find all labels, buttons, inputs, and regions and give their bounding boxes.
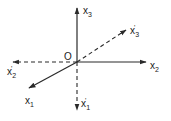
- label-x3-prime: x'3: [130, 26, 139, 40]
- label-x2-prime: x'2: [7, 67, 16, 81]
- origin-label: O: [64, 52, 72, 62]
- label-x1-prime: x'1: [81, 99, 90, 113]
- coordinate-axes-diagram: O x3 x'3 x2 x'2 x1 x'1: [0, 0, 171, 121]
- label-x1: x1: [25, 96, 34, 110]
- label-x3: x3: [83, 6, 92, 20]
- label-x2: x2: [150, 61, 159, 75]
- axis-x1: [29, 62, 77, 88]
- axis-x3-prime: [77, 30, 126, 62]
